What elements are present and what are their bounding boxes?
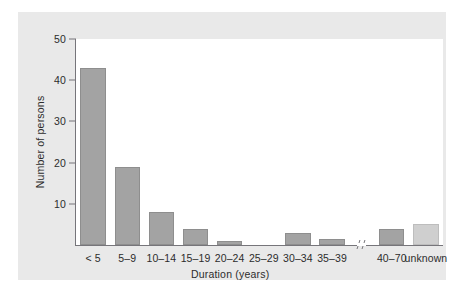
x-axis-tick-label: < 5	[85, 252, 100, 264]
y-axis-tick	[69, 39, 76, 40]
bar	[379, 229, 404, 245]
plot-area: 1020304050 < 55–910–1415–1920–2425–2930–…	[75, 39, 443, 246]
y-axis-tick-label: 10	[54, 198, 66, 210]
x-axis-tick-label: 25–29	[249, 252, 279, 264]
y-axis-tick-label: 20	[54, 157, 66, 169]
x-axis-tick-label: 15–19	[181, 252, 211, 264]
bar	[115, 167, 140, 245]
x-axis-tick-label: unknown	[405, 252, 448, 264]
x-axis-tick-label: 30–34	[283, 252, 313, 264]
chart-panel: Number of persons 1020304050 < 55–910–14…	[18, 12, 446, 280]
x-axis-tick-label: 35–39	[317, 252, 347, 264]
y-axis-tick	[69, 203, 76, 204]
y-axis-tick	[69, 162, 76, 163]
y-axis-tick	[69, 121, 76, 122]
x-axis-tick-label: 5–9	[118, 252, 136, 264]
y-axis-title: Number of persons	[34, 96, 46, 189]
bar	[285, 233, 310, 245]
bar	[80, 68, 105, 245]
bar	[183, 229, 208, 245]
x-axis-tick-label: 20–24	[215, 252, 245, 264]
bar	[217, 241, 242, 245]
bar	[319, 239, 344, 245]
x-axis-tick-label: 40–70	[377, 252, 407, 264]
y-axis-tick	[69, 80, 76, 81]
y-axis-tick-label: 50	[54, 33, 66, 45]
bar	[149, 212, 174, 245]
x-axis-title: Duration (years)	[191, 268, 269, 280]
axis-break-icon	[356, 240, 367, 249]
figure: Number of persons 1020304050 < 55–910–14…	[0, 0, 462, 299]
bar	[413, 224, 438, 245]
y-axis-tick-label: 30	[54, 115, 66, 127]
x-axis-tick-label: 10–14	[146, 252, 176, 264]
y-axis-tick-label: 40	[54, 74, 66, 86]
